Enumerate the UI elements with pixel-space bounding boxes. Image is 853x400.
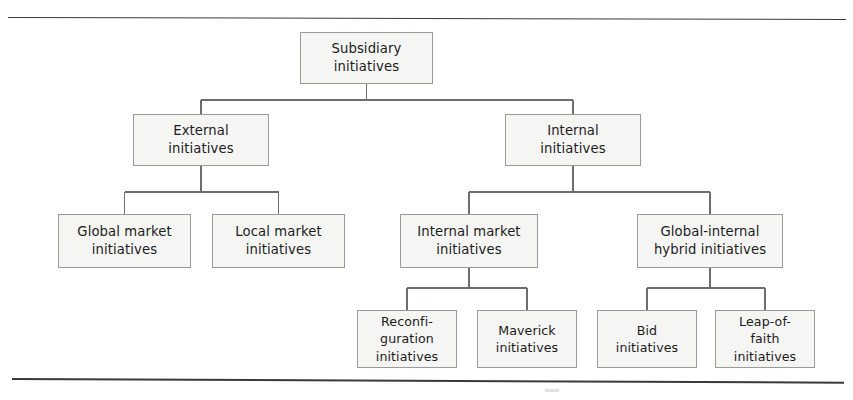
node-internal-initiatives[interactable]: Internal initiatives [505, 114, 641, 166]
hierarchy-diagram: Subsidiary initiatives External initiati… [0, 0, 853, 400]
node-internal-market-initiatives[interactable]: Internal market initiatives [400, 214, 538, 268]
node-maverick-initiatives[interactable]: Maverick initiatives [477, 310, 577, 368]
node-subsidiary-initiatives[interactable]: Subsidiary initiatives [300, 32, 433, 84]
node-global-market-initiatives[interactable]: Global market initiatives [58, 214, 191, 268]
node-external-initiatives[interactable]: External initiatives [133, 114, 269, 166]
node-local-market-initiatives[interactable]: Local market initiatives [212, 214, 345, 268]
scan-artifact-mark [545, 389, 559, 392]
node-bid-initiatives[interactable]: Bid initiatives [597, 310, 697, 368]
figure-bottom-rule [12, 378, 844, 383]
node-reconfiguration-initiatives[interactable]: Reconfi- guration initiatives [357, 310, 457, 368]
node-global-internal-hybrid-initiatives[interactable]: Global-internal hybrid initiatives [637, 214, 783, 268]
figure-top-rule [8, 17, 846, 20]
node-leap-of-faith-initiatives[interactable]: Leap-of- faith initiatives [715, 310, 815, 368]
